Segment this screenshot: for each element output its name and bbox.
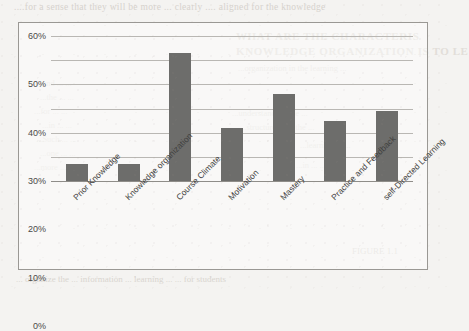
bar bbox=[273, 94, 295, 181]
gridline: 60% bbox=[51, 36, 413, 37]
x-axis-line: 0% bbox=[51, 181, 413, 182]
bleed-through-top-line: ....for a sense that they will be more .… bbox=[14, 2, 326, 12]
bar bbox=[66, 164, 88, 181]
bar bbox=[169, 53, 191, 181]
bar bbox=[118, 164, 140, 181]
y-axis-tick-label: 40% bbox=[28, 128, 46, 138]
y-axis-tick-label: 30% bbox=[28, 176, 46, 186]
y-axis-tick-label: 50% bbox=[28, 79, 46, 89]
gridline: 50% bbox=[51, 60, 413, 61]
gridline: 40% bbox=[51, 84, 413, 85]
y-axis-tick-label: 60% bbox=[28, 31, 46, 41]
bar bbox=[324, 121, 346, 181]
bar bbox=[221, 128, 243, 181]
chart-frame: 0%10%20%30%40%50%60% Prior KnowledgeKnow… bbox=[18, 22, 428, 270]
y-axis-tick-label: 20% bbox=[28, 224, 46, 234]
y-axis-tick-label: 10% bbox=[28, 273, 46, 283]
gridline: 30% bbox=[51, 109, 413, 110]
y-axis-tick-label: 0% bbox=[33, 321, 46, 331]
x-axis-labels: Prior KnowledgeKnowledge organizationCou… bbox=[51, 195, 413, 265]
bleed-through-bottom-line: ... organize the ... information ... lea… bbox=[16, 274, 226, 284]
